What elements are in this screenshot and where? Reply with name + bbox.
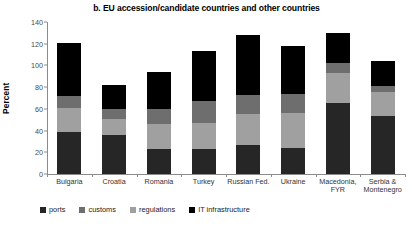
legend-label: IT infrastructure [198,205,250,214]
chart-figure: b. EU accession/candidate countries and … [0,0,413,230]
bar-group[interactable] [147,72,171,174]
bar-segment-regulations [192,123,216,149]
bar-group[interactable] [192,51,216,174]
bar-segment-regulations [326,73,350,103]
x-tick-mark [360,174,361,177]
chart-legend: portscustomsregulationsIT infrastructure [40,205,264,214]
bar-segment-it-infrastructure [57,43,81,96]
bar-segment-regulations [236,114,260,144]
chart-title: b. EU accession/candidate countries and … [0,3,413,13]
bar-segment-ports [281,148,305,174]
bar-segment-regulations [147,124,171,149]
bar-segment-ports [57,132,81,174]
legend-swatch-icon [40,207,46,213]
bar-segment-customs [57,96,81,108]
bar-segment-it-infrastructure [147,72,171,109]
bar-segment-ports [102,135,126,174]
bar-segment-it-infrastructure [371,61,395,86]
bar-segment-it-infrastructure [236,35,260,95]
legend-label: regulations [139,205,175,214]
bar-segment-customs [281,94,305,114]
bar-segment-customs [192,101,216,123]
legend-item[interactable]: IT infrastructure [189,205,250,214]
legend-label: ports [49,205,65,214]
bar-segment-ports [371,116,395,174]
y-axis-label: Percent [2,22,11,174]
x-tick-mark [271,174,272,177]
bar-segment-ports [326,103,350,174]
x-tick-mark [181,174,182,177]
bar-group[interactable] [57,43,81,174]
bar-segment-customs [147,109,171,124]
bar-segment-it-infrastructure [281,46,305,94]
x-tick-mark [316,174,317,177]
x-tick-mark [137,174,138,177]
bar-segment-ports [147,149,171,174]
bar-segment-it-infrastructure [102,85,126,109]
bar-segment-regulations [102,119,126,135]
bar-group[interactable] [281,46,305,174]
bar-segment-customs [236,95,260,115]
bar-segment-ports [236,145,260,174]
plot-area: 020406080100120140 [47,22,405,174]
bar-segment-it-infrastructure [192,51,216,101]
bar-group[interactable] [371,61,395,174]
legend-item[interactable]: customs [79,205,116,214]
bar-segment-ports [192,149,216,174]
bar-group[interactable] [102,85,126,174]
x-tick-mark [47,174,48,177]
legend-swatch-icon [189,207,195,213]
x-tick-label: Serbia &Montenegro [351,178,413,195]
bar-group[interactable] [236,35,260,174]
legend-swatch-icon [79,207,85,213]
bar-segment-regulations [57,108,81,132]
bar-segment-it-infrastructure [326,33,350,63]
legend-swatch-icon [130,207,136,213]
x-tick-label-line: Montenegro [351,186,413,194]
bar-segment-customs [102,109,126,119]
legend-item[interactable]: regulations [130,205,175,214]
x-tick-mark [405,174,406,177]
bar-segment-customs [326,63,350,73]
x-tick-mark [92,174,93,177]
bar-segment-regulations [371,92,395,117]
bar-segment-regulations [281,113,305,148]
bar-group[interactable] [326,33,350,174]
legend-label: customs [88,205,116,214]
legend-item[interactable]: ports [40,205,65,214]
bar-series-container [47,22,405,174]
